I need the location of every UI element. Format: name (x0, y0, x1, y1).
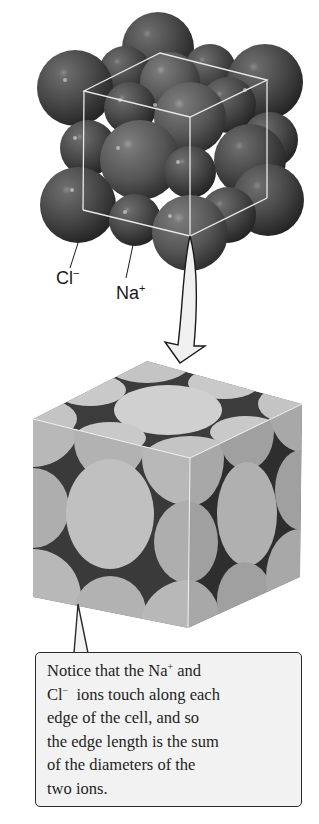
unit-cell-cutaway (0, 339, 319, 676)
na-leader-line (126, 245, 133, 278)
callout-line-1: Notice that the Na+ and (47, 659, 302, 683)
callout-line-5: of the diameters of the (47, 753, 302, 777)
callout-pointer (74, 604, 88, 653)
callout-line-2: Cl− ions touch along each (47, 683, 302, 707)
chloride-label: Cl− (56, 268, 79, 287)
callout-box: Notice that the Na+ and Cl− ions touch a… (35, 652, 302, 807)
space-filling-model (37, 12, 304, 278)
callout-line-3: edge of the cell, and so (47, 706, 302, 730)
cl-leader-line (70, 243, 78, 268)
sodium-label: Na+ (116, 283, 145, 302)
callout-line-4: the edge length is the sum (47, 730, 302, 754)
callout-line-6: two ions. (47, 777, 302, 801)
callout-text: Notice that the Na+ and Cl− ions touch a… (47, 659, 302, 800)
